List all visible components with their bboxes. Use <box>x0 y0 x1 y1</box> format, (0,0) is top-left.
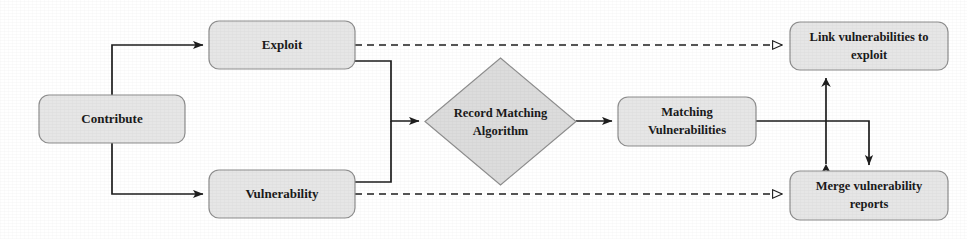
flowchart-diagram: Contribute Exploit Vulnerability Record … <box>0 0 967 239</box>
node-link-vulnerabilities-to-exploit[interactable]: Link vulnerabilities to exploit <box>790 22 948 70</box>
node-vulnerability[interactable]: Vulnerability <box>209 170 355 218</box>
node-exploit[interactable]: Exploit <box>209 21 355 69</box>
merge-vulnerability-reports-label-line-2: reports <box>850 197 889 211</box>
edge-vulnerability-to-algorithm <box>355 121 391 182</box>
exploit-label: Exploit <box>262 37 303 52</box>
flowchart-canvas: Contribute Exploit Vulnerability Record … <box>0 0 967 239</box>
edge-matching-vulnerabilities-to-merge-reports <box>756 121 869 165</box>
vulnerability-label: Vulnerability <box>245 186 319 201</box>
edge-contribute-to-vulnerability <box>112 143 203 194</box>
edge-contribute-to-exploit <box>112 45 203 95</box>
edge-exploit-to-algorithm <box>355 61 419 121</box>
node-record-matching-algorithm[interactable]: Record Matching Algorithm <box>425 58 576 185</box>
node-contribute[interactable]: Contribute <box>39 95 185 143</box>
record-matching-algorithm-label-line-1: Record Matching <box>454 106 548 120</box>
matching-vulnerabilities-label-line-2: Vulnerabilities <box>648 123 726 137</box>
link-vulnerabilities-to-exploit-label-line-1: Link vulnerabilities to <box>810 30 929 44</box>
node-merge-vulnerability-reports[interactable]: Merge vulnerability reports <box>790 171 948 220</box>
contribute-label: Contribute <box>81 111 143 126</box>
record-matching-algorithm-diamond[interactable] <box>425 58 576 185</box>
merge-vulnerability-reports-label-line-1: Merge vulnerability <box>816 179 923 193</box>
record-matching-algorithm-label-line-2: Algorithm <box>473 124 529 138</box>
link-vulnerabilities-to-exploit-label-line-2: exploit <box>851 48 888 62</box>
node-matching-vulnerabilities[interactable]: Matching Vulnerabilities <box>618 97 756 146</box>
matching-vulnerabilities-label-line-1: Matching <box>661 105 713 119</box>
